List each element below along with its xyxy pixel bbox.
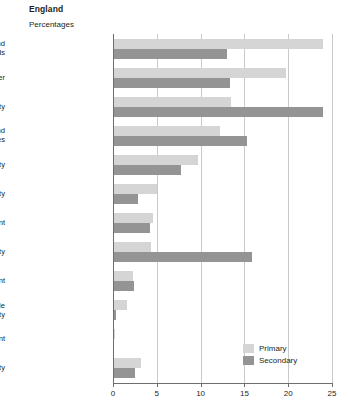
bar-primary bbox=[113, 39, 323, 49]
category-label: Moderate learning difficulty bbox=[0, 102, 5, 111]
x-axis-tick-label: 15 bbox=[240, 389, 249, 398]
legend-swatch-secondary-icon bbox=[243, 356, 254, 365]
bar-primary bbox=[113, 271, 133, 281]
bar-primary bbox=[113, 300, 127, 310]
x-axis-tick bbox=[288, 383, 289, 387]
page-title: England bbox=[29, 4, 63, 14]
category-label: Speech, language and communication needs bbox=[0, 39, 5, 57]
x-axis-tick bbox=[113, 383, 114, 387]
bar-primary bbox=[113, 242, 151, 252]
x-axis-tick-label: 20 bbox=[284, 389, 293, 398]
x-axis-tick-label: 25 bbox=[328, 389, 337, 398]
gridline bbox=[288, 34, 289, 383]
x-axis-tick-label: 0 bbox=[111, 389, 115, 398]
x-axis-line bbox=[113, 383, 333, 384]
bar-secondary bbox=[113, 223, 150, 233]
bar-secondary bbox=[113, 165, 181, 175]
legend-item-secondary: Secondary bbox=[243, 355, 297, 366]
category-label: Severe learning difficulty bbox=[0, 189, 5, 198]
x-axis-tick-label: 5 bbox=[155, 389, 159, 398]
legend-item-primary: Primary bbox=[243, 343, 297, 354]
x-axis-tick-label: 10 bbox=[196, 389, 205, 398]
chart-container: England Percentages 0510152025 Speech, l… bbox=[0, 0, 348, 414]
legend-swatch-primary-icon bbox=[243, 344, 254, 353]
category-label: Other difficulty/disability bbox=[0, 363, 5, 372]
bar-secondary bbox=[113, 107, 323, 117]
category-label: Hearing impairment bbox=[0, 218, 5, 227]
bar-primary bbox=[113, 213, 153, 223]
x-axis-tick bbox=[244, 383, 245, 387]
category-label: Autistic spectrum disorder bbox=[0, 73, 5, 82]
gridline bbox=[332, 34, 333, 383]
category-label: Multi-sensory impairment bbox=[0, 334, 5, 343]
gridline bbox=[244, 34, 245, 383]
category-label: Visual impairment bbox=[0, 276, 5, 285]
category-label: Behaviour, emotional and social difficul… bbox=[0, 126, 5, 144]
category-label: Specific learning difficulty bbox=[0, 247, 5, 256]
chart-legend: Primary Secondary bbox=[243, 343, 297, 367]
bar-secondary bbox=[113, 252, 252, 262]
chart-subtitle: Percentages bbox=[29, 20, 74, 29]
bar-secondary bbox=[113, 78, 230, 88]
bar-primary bbox=[113, 97, 231, 107]
category-label: Profound and multiple learning difficult… bbox=[0, 301, 5, 319]
bar-primary bbox=[113, 68, 286, 78]
bar-secondary bbox=[113, 368, 135, 378]
bar-secondary bbox=[113, 194, 138, 204]
category-label: Physical disability bbox=[0, 160, 5, 169]
x-axis-tick bbox=[157, 383, 158, 387]
y-axis-line bbox=[113, 34, 114, 384]
bar-primary bbox=[113, 155, 198, 165]
bar-primary bbox=[113, 358, 141, 368]
plot-area bbox=[113, 34, 332, 383]
bar-secondary bbox=[113, 49, 227, 59]
x-axis-tick bbox=[201, 383, 202, 387]
legend-label-primary: Primary bbox=[259, 344, 287, 353]
x-axis-tick bbox=[332, 383, 333, 387]
bar-primary bbox=[113, 184, 157, 194]
bar-primary bbox=[113, 126, 220, 136]
bar-secondary bbox=[113, 281, 134, 291]
legend-label-secondary: Secondary bbox=[259, 356, 297, 365]
bar-secondary bbox=[113, 136, 247, 146]
